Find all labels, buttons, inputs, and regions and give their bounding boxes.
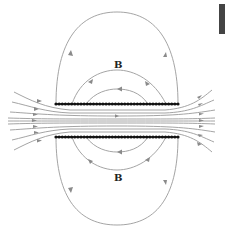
corner-block: [219, 4, 225, 34]
field-lines: [8, 12, 215, 225]
solenoid-coil-top: [54, 102, 179, 105]
solenoid-field-diagram: [0, 0, 225, 235]
solenoid-coil-bottom: [54, 135, 179, 138]
field-label-bottom: B: [114, 172, 122, 183]
field-label-top: B: [114, 59, 122, 70]
